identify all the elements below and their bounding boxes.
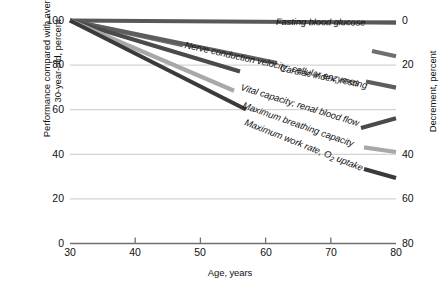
y-right-tick-20: 20 xyxy=(402,58,432,70)
line-nerve-conduction-velocity-stub xyxy=(372,51,396,56)
x-tick-50: 50 xyxy=(187,246,213,258)
x-axis-title: Age, years xyxy=(170,267,290,278)
x-tick-80: 80 xyxy=(383,246,409,258)
x-axis xyxy=(70,238,396,244)
y-left-tick-80: 80 xyxy=(38,58,64,70)
chart-figure: Performance compared with average 30-yea… xyxy=(0,0,443,296)
line-maximum-work-rate-o2-uptake-stub xyxy=(364,169,396,178)
x-tick-60: 60 xyxy=(253,246,279,258)
series-label-fasting-blood-glucose: Fasting blood glucose xyxy=(276,17,365,27)
x-tick-40: 40 xyxy=(122,246,148,258)
y-left-tick-100: 100 xyxy=(38,14,64,26)
y-right-tick-40: 40 xyxy=(402,148,432,160)
line-maximum-breathing-capacity-stub xyxy=(364,147,396,152)
y-left-tick-40: 40 xyxy=(38,148,64,160)
x-tick-30: 30 xyxy=(57,246,83,258)
y-right-tick-60: 60 xyxy=(402,192,432,204)
y-left-tick-20: 20 xyxy=(38,192,64,204)
y-right-tick-0: 0 xyxy=(402,14,432,26)
x-tick-70: 70 xyxy=(318,246,344,258)
line-vital-capacity-renal-blood-flow-stub xyxy=(361,118,396,128)
line-cardiac-index-resting-stub xyxy=(366,82,396,88)
y-left-tick-60: 60 xyxy=(38,103,64,115)
